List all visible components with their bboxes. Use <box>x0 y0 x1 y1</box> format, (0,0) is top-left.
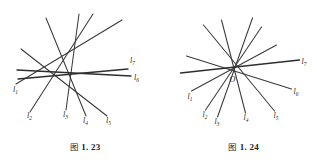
figure-page: l1 l2 l3 l4 l5 l6 l7 图 1. 23 <box>0 0 317 166</box>
figure-1-24-center: O <box>230 75 236 84</box>
label-l1: l1 <box>188 92 193 102</box>
label-l6: l6 <box>134 73 139 83</box>
line-l4 <box>46 18 86 116</box>
figure-1-23-canvas: l1 l2 l3 l4 l5 l6 l7 <box>0 0 170 140</box>
caption-number: 1. 23 <box>81 142 100 152</box>
caption-prefix: 图 <box>70 142 79 152</box>
label-l2: l2 <box>203 110 208 120</box>
label-l3: l3 <box>215 117 220 127</box>
figure-1-24-caption: 图 1. 24 <box>170 140 317 152</box>
label-l1: l1 <box>13 85 18 95</box>
caption-prefix: 图 <box>228 142 237 152</box>
line-l7 <box>181 60 300 73</box>
figure-1-24-svg: O l1 l2 l3 l4 l5 l6 l7 <box>170 0 317 140</box>
caption-number: 1. 24 <box>240 142 259 152</box>
figure-1-24-canvas: O l1 l2 l3 l4 l5 l6 l7 <box>170 0 317 140</box>
label-l4: l4 <box>244 113 249 123</box>
figure-1-23-svg: l1 l2 l3 l4 l5 l6 l7 <box>0 0 170 140</box>
label-l4: l4 <box>83 116 88 126</box>
figure-1-24-lines <box>181 18 300 117</box>
line-l3 <box>66 14 79 110</box>
label-l7: l7 <box>130 56 135 66</box>
figure-1-24-labels: l1 l2 l3 l4 l5 l6 l7 <box>188 57 307 127</box>
figure-1-23-lines <box>16 14 131 116</box>
figure-1-23: l1 l2 l3 l4 l5 l6 l7 图 1. 23 <box>0 0 170 166</box>
label-l5: l5 <box>106 116 111 126</box>
figure-1-24: O l1 l2 l3 l4 l5 l6 l7 图 1. 24 <box>170 0 317 166</box>
label-l2: l2 <box>27 111 32 121</box>
label-point-O: O <box>230 75 236 84</box>
label-l5: l5 <box>274 111 279 121</box>
label-l7: l7 <box>302 57 307 67</box>
figure-1-23-caption: 图 1. 23 <box>0 140 170 152</box>
label-l3: l3 <box>63 110 68 120</box>
label-l6: l6 <box>294 87 299 97</box>
